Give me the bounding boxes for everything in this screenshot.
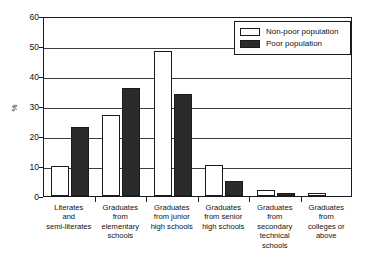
y-tick-label: 20 xyxy=(14,133,39,141)
y-tick-label: 0 xyxy=(14,193,39,201)
category-tick xyxy=(249,197,250,202)
x-axis-label: Graduatesfrom seniorhigh schools xyxy=(198,203,250,231)
legend-item: Poor population xyxy=(240,38,345,50)
category-tick xyxy=(301,197,302,202)
bar xyxy=(308,193,326,196)
x-axis-label: Graduatesfrom juniorhigh schools xyxy=(146,203,198,231)
bar-chart: % 6050403020100 Literatesandsemi-literat… xyxy=(0,0,368,264)
y-tick-mark xyxy=(39,197,43,198)
category-tick xyxy=(198,197,199,202)
legend-swatch-nonpoor xyxy=(240,28,260,36)
y-tick-label: 30 xyxy=(14,103,39,111)
y-tick-label: 10 xyxy=(14,163,39,171)
legend-swatch-poor xyxy=(240,40,260,48)
category-tick xyxy=(95,197,96,202)
legend-label: Poor population xyxy=(266,39,322,49)
y-axis-tick-labels: 6050403020100 xyxy=(14,0,39,264)
category-tick xyxy=(146,197,147,202)
x-axis-label: Literatesandsemi-literates xyxy=(43,203,95,231)
y-tick-label: 60 xyxy=(14,13,39,21)
y-tick-label: 40 xyxy=(14,73,39,81)
x-axis-label: Graduatesfromelementaryschools xyxy=(95,203,147,241)
legend-item: Non-poor population xyxy=(240,26,345,38)
x-axis-label: Graduatesfromsecondarytechnicalschools xyxy=(249,203,301,250)
x-axis-label: Graduatesfromcolleges orabove xyxy=(301,203,353,241)
x-axis-labels: Literatesandsemi-literatesGraduatesfrome… xyxy=(43,203,352,261)
legend-label: Non-poor population xyxy=(266,27,339,37)
chart-legend: Non-poor populationPoor population xyxy=(234,21,351,55)
y-tick-label: 50 xyxy=(14,43,39,51)
